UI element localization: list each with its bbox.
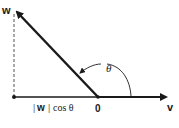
abs-open: |: [33, 101, 35, 113]
vector-projection-diagram: w v 0 θ | w | cos θ: [0, 0, 179, 128]
projection-vector-w: w: [36, 102, 45, 113]
projection-point: [12, 95, 16, 99]
vector-v-label: v: [167, 101, 174, 113]
abs-close: |: [48, 101, 50, 113]
angle-theta-label: θ: [106, 62, 112, 74]
cos-theta-text: cos θ: [53, 102, 74, 113]
vector-w-label: w: [1, 4, 11, 16]
projection-label: | w | cos θ: [33, 101, 74, 113]
vector-w-arrow: [17, 12, 98, 97]
origin-label: 0: [95, 103, 101, 114]
origin-point: [96, 95, 100, 99]
